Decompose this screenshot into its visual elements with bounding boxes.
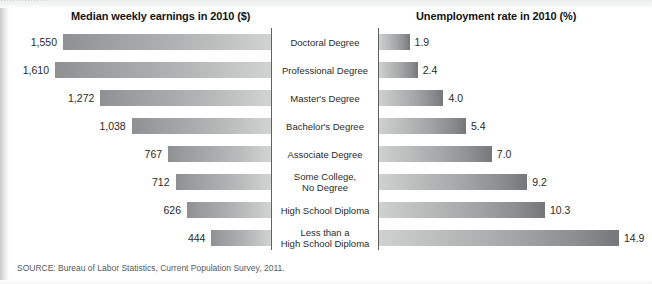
right-bar-value-label: 10.3	[550, 202, 570, 218]
category-label: High School Diploma	[272, 196, 378, 224]
chart-row: 444Less than aHigh School Diploma14.9	[0, 224, 652, 252]
left-bar-value-label: 1,550	[31, 34, 57, 50]
category-label: Master's Degree	[272, 84, 378, 112]
left-bar	[211, 230, 271, 246]
left-bar-track: 1,550	[0, 28, 271, 56]
right-bar	[379, 118, 466, 134]
right-bar-wrap: 1.9	[379, 34, 429, 50]
left-bar	[55, 62, 271, 78]
category-label: Associate Degree	[272, 140, 378, 168]
right-bar-track: 7.0	[379, 140, 652, 168]
right-bar-value-label: 14.9	[624, 230, 644, 246]
right-bar-track: 10.3	[379, 196, 652, 224]
scan-top-bleed: ················	[0, 0, 652, 8]
right-bar-track: 1.9	[379, 28, 652, 56]
right-bar-wrap: 9.2	[379, 174, 547, 190]
chart-row: 1,272Master's Degree4.0	[0, 84, 652, 112]
page-bottom-edge-shadow	[0, 280, 652, 284]
left-bar-track: 1,038	[0, 112, 271, 140]
right-bar-track: 2.4	[379, 56, 652, 84]
left-bar-value-label: 712	[152, 174, 170, 190]
left-bar-value-label: 767	[145, 146, 163, 162]
right-bar-wrap: 5.4	[379, 118, 486, 134]
category-label: Professional Degree	[272, 56, 378, 84]
right-bar	[379, 230, 619, 246]
left-bar-value-label: 444	[188, 230, 206, 246]
category-label: Bachelor's Degree	[272, 112, 378, 140]
right-chart-title: Unemployment rate in 2010 (%)	[416, 10, 576, 22]
left-bar-track: 767	[0, 140, 271, 168]
left-bar-track: 626	[0, 196, 271, 224]
chart-row: 712Some College,No Degree9.2	[0, 168, 652, 196]
right-bar	[379, 62, 418, 78]
figure-root: ················ Median weekly earnings …	[0, 0, 652, 284]
chart-row: 1,038Bachelor's Degree5.4	[0, 112, 652, 140]
left-chart-title: Median weekly earnings in 2010 ($)	[71, 10, 250, 22]
right-bar-wrap: 2.4	[379, 62, 437, 78]
left-bar-wrap: 626	[187, 202, 271, 218]
left-bar-track: 1,272	[0, 84, 271, 112]
chart-rows: 1,550Doctoral Degree1.91,610Professional…	[0, 28, 652, 252]
chart-row: 767Associate Degree7.0	[0, 140, 652, 168]
left-bar-track: 712	[0, 168, 271, 196]
left-bar-wrap: 767	[168, 146, 271, 162]
chart-row: 1,610Professional Degree2.4	[0, 56, 652, 84]
left-bar-wrap: 444	[211, 230, 271, 246]
left-bar-wrap: 712	[176, 174, 272, 190]
left-bar-wrap: 1,550	[63, 34, 271, 50]
right-bar-value-label: 1.9	[415, 34, 430, 50]
left-bar	[63, 34, 271, 50]
right-bar-wrap: 4.0	[379, 90, 463, 106]
left-bar-value-label: 1,272	[68, 90, 94, 106]
right-bar-value-label: 9.2	[532, 174, 547, 190]
left-bar	[168, 146, 271, 162]
right-bar-value-label: 4.0	[448, 90, 463, 106]
right-bar-wrap: 10.3	[379, 202, 570, 218]
right-bar-value-label: 7.0	[497, 146, 512, 162]
right-bar	[379, 202, 545, 218]
category-label: Doctoral Degree	[272, 28, 378, 56]
right-bar-track: 4.0	[379, 84, 652, 112]
right-bar-value-label: 2.4	[423, 62, 438, 78]
left-bar-value-label: 1,610	[23, 62, 49, 78]
right-bar-value-label: 5.4	[471, 118, 486, 134]
left-bar-value-label: 626	[163, 202, 181, 218]
category-label: Some College,No Degree	[272, 168, 378, 196]
right-bar	[379, 174, 527, 190]
chart-row: 626High School Diploma10.3	[0, 196, 652, 224]
right-bar-wrap: 14.9	[379, 230, 644, 246]
left-bar	[132, 118, 271, 134]
right-bar-track: 14.9	[379, 224, 652, 252]
left-bar-wrap: 1,272	[100, 90, 271, 106]
right-bar-wrap: 7.0	[379, 146, 511, 162]
left-bar-track: 444	[0, 224, 271, 252]
right-bar-track: 9.2	[379, 168, 652, 196]
chart-row: 1,550Doctoral Degree1.9	[0, 28, 652, 56]
right-bar-track: 5.4	[379, 112, 652, 140]
left-bar	[176, 174, 272, 190]
left-bar-wrap: 1,610	[55, 62, 271, 78]
left-bar-track: 1,610	[0, 56, 271, 84]
left-bar-wrap: 1,038	[132, 118, 271, 134]
category-label: Less than aHigh School Diploma	[272, 224, 378, 252]
source-note: SOURCE: Bureau of Labor Statistics, Curr…	[17, 263, 285, 273]
left-bar	[100, 90, 271, 106]
cut-off-text-ghost: ················	[0, 0, 48, 5]
right-bar	[379, 34, 410, 50]
right-bar	[379, 90, 443, 106]
left-bar-value-label: 1,038	[99, 118, 125, 134]
left-bar	[187, 202, 271, 218]
right-bar	[379, 146, 492, 162]
chart-headers: Median weekly earnings in 2010 ($) Unemp…	[0, 10, 652, 26]
